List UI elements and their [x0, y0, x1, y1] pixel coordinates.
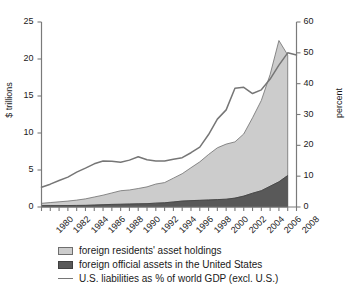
area-series-group — [42, 41, 288, 208]
legend-item-foreign-residents: foreign residents' asset holdings — [58, 244, 344, 257]
y-axis-right-tick-label: 10 — [304, 170, 330, 180]
y-axis-right-tick-label: 60 — [304, 16, 330, 26]
y-axis-right-title: percent — [334, 73, 344, 133]
y-axis-left-tick-label: 25 — [8, 16, 34, 26]
legend-label-foreign-residents: foreign residents' asset holdings — [79, 245, 222, 256]
y-axis-right-tick-label: 0 — [304, 201, 330, 211]
legend-item-us-liabilities: U.S. liabilities as % of world GDP (excl… — [58, 272, 344, 285]
y-axis-left-tick-label: 5 — [8, 164, 34, 174]
y-axis-left-title: $ trillions — [4, 70, 14, 130]
chart-figure: $ trillions percent 0510152025 010203040… — [0, 0, 346, 290]
y-axis-right-tick-label: 30 — [304, 109, 330, 119]
y-axis-left-tick-label: 15 — [8, 90, 34, 100]
area-foreign-residents-asset-holdings — [42, 41, 288, 206]
y-axis-right-tick-label: 20 — [304, 139, 330, 149]
y-axis-left-tick-label: 0 — [8, 201, 34, 211]
legend-item-foreign-official: foreign official assets in the United St… — [58, 258, 344, 271]
y-axis-left-tick-label: 20 — [8, 53, 34, 63]
legend-label-us-liabilities: U.S. liabilities as % of world GDP (excl… — [79, 273, 278, 284]
chart-legend: foreign residents' asset holdings foreig… — [58, 244, 344, 286]
y-axis-right-tick-label: 50 — [304, 47, 330, 57]
legend-swatch-light-square-icon — [58, 247, 73, 255]
legend-label-foreign-official: foreign official assets in the United St… — [79, 259, 262, 270]
y-axis-right-tick-label: 40 — [304, 78, 330, 88]
legend-swatch-line-icon — [58, 275, 73, 283]
y-axis-left-tick-label: 10 — [8, 127, 34, 137]
legend-swatch-dark-square-icon — [58, 261, 73, 269]
